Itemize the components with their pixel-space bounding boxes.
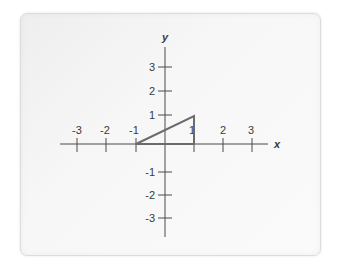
y-tick-label: -1 — [145, 166, 155, 178]
coordinate-plane: -3 -2 -1 1 2 3 3 2 1 -1 -2 -3 x y — [0, 0, 338, 265]
x-tick-label: -2 — [100, 124, 110, 136]
x-tick-label: -1 — [129, 124, 139, 136]
x-tick-label: 2 — [220, 124, 226, 136]
x-tick-label: 3 — [248, 124, 254, 136]
x-tick-label: -3 — [72, 124, 82, 136]
x-axis-label: x — [273, 138, 281, 150]
y-tick-label: 3 — [149, 61, 155, 73]
y-axis-label: y — [161, 31, 169, 43]
y-tick-label: -2 — [145, 189, 155, 201]
y-tick-label: 1 — [149, 109, 155, 121]
y-tick-label: -3 — [145, 212, 155, 224]
y-tick-label: 2 — [149, 85, 155, 97]
